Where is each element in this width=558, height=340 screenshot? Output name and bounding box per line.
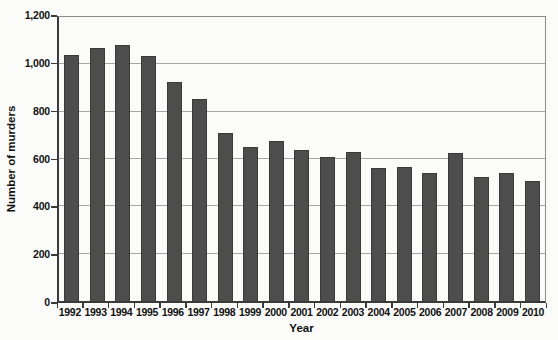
y-tick-label-600: 600 [0,153,50,166]
bar-1995 [141,56,156,301]
bar-2008 [474,177,489,301]
bar-slot-2000 [264,17,290,301]
bar-2004 [371,168,386,301]
bar-2009 [499,173,514,301]
y-tick-mark-200 [51,254,57,256]
bar-slot-1993 [85,17,111,301]
y-tick-label-800: 800 [0,105,50,118]
bar-2001 [294,150,309,301]
bar-1992 [64,55,79,301]
x-tick-label-2000: 2000 [263,306,289,320]
y-tick-label-400: 400 [0,200,50,213]
bar-1998 [218,133,233,301]
x-tick-label-1992: 1992 [57,306,83,320]
bar-2000 [269,141,284,301]
y-tick-mark-600 [51,159,57,161]
murders-by-year-bar-chart: Number of murders 02004006008001,0001,20… [0,0,558,340]
x-tick-label-2007: 2007 [443,306,469,320]
bar-2006 [422,173,437,301]
bar-2003 [346,152,361,301]
bar-slot-1999 [238,17,264,301]
bar-2007 [448,153,463,301]
x-tick-label-2003: 2003 [340,306,366,320]
bar-slot-2008 [468,17,494,301]
bar-slot-1996 [161,17,187,301]
x-tick-label-1998: 1998 [211,306,237,320]
x-axis-tick-labels: 1992199319941995199619971998199920002001… [57,306,546,320]
bar-slot-2001 [289,17,315,301]
x-tick-label-1997: 1997 [186,306,212,320]
bar-1996 [167,82,182,301]
bar-slot-2003 [340,17,366,301]
x-tick-label-2001: 2001 [289,306,315,320]
bar-slot-1992 [59,17,85,301]
bar-1993 [90,48,105,301]
x-tick-label-1996: 1996 [160,306,186,320]
bar-slot-2010 [519,17,545,301]
x-tick-label-1995: 1995 [134,306,160,320]
bar-slot-2007 [443,17,469,301]
x-axis-title: Year [57,322,546,334]
y-tick-mark-400 [51,206,57,208]
plot-area [57,16,546,303]
bar-slot-1994 [110,17,136,301]
bar-1997 [192,99,207,301]
x-tick-label-2009: 2009 [494,306,520,320]
bar-slot-2009 [494,17,520,301]
y-tick-mark-1000 [51,63,57,65]
y-tick-label-200: 200 [0,248,50,261]
x-tick-label-1994: 1994 [108,306,134,320]
x-tick-label-2010: 2010 [520,306,546,320]
x-tick-label-2008: 2008 [469,306,495,320]
y-tick-label-1200: 1,200 [0,9,50,22]
bar-2010 [525,181,540,301]
bar-slot-2005 [392,17,418,301]
x-tick-label-1993: 1993 [83,306,109,320]
y-axis-tick-labels: 02004006008001,0001,200 [0,0,57,340]
y-tick-mark-1200 [51,15,57,17]
y-tick-label-0: 0 [0,296,50,309]
bar-1999 [243,147,258,301]
bar-slot-2004 [366,17,392,301]
bar-1994 [115,45,130,301]
x-tick-label-2004: 2004 [366,306,392,320]
y-tick-mark-800 [51,111,57,113]
x-tick-label-2006: 2006 [417,306,443,320]
x-tick-label-2005: 2005 [392,306,418,320]
bar-slot-1995 [136,17,162,301]
bar-2002 [320,157,335,301]
bar-slot-1998 [212,17,238,301]
x-tick-label-1999: 1999 [237,306,263,320]
y-tick-label-1000: 1,000 [0,57,50,70]
x-tick-label-2002: 2002 [314,306,340,320]
bar-slot-1997 [187,17,213,301]
bar-slot-2002 [315,17,341,301]
bar-2005 [397,167,412,301]
bar-slot-2006 [417,17,443,301]
bars-container [59,17,545,301]
